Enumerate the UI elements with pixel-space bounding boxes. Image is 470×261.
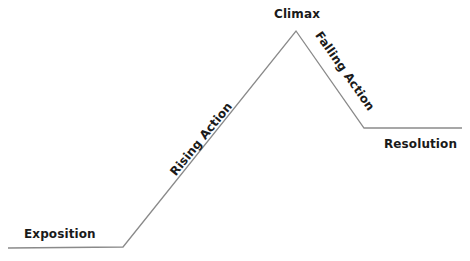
- plot-diagram: Exposition Rising Action Climax Falling …: [0, 0, 470, 261]
- label-climax: Climax: [274, 7, 320, 21]
- plot-line: [0, 0, 470, 261]
- label-exposition: Exposition: [24, 227, 96, 241]
- label-resolution: Resolution: [384, 137, 457, 151]
